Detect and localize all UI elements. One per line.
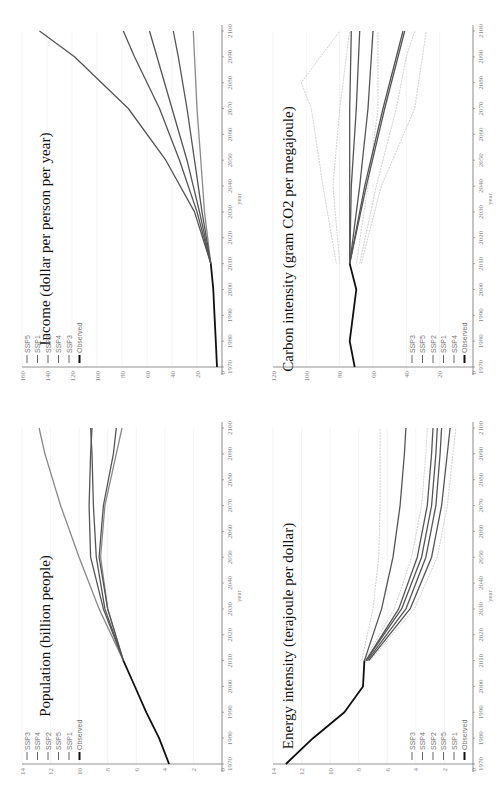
- y-tick-label: 8: [104, 768, 112, 772]
- y-tick-label: 2: [441, 768, 449, 772]
- x-tick-label: 2000: [226, 282, 234, 297]
- x-tick-label: 2010: [477, 653, 485, 668]
- x-tick-label: 2010: [477, 256, 485, 271]
- series-line-ssp5: [40, 31, 211, 264]
- panel-population: 0246810121419701980199020002010202020302…: [0, 397, 250, 794]
- x-tick-label: 2100: [477, 24, 485, 39]
- legend-label: SSP1: [34, 335, 41, 353]
- y-tick-label: 6: [133, 768, 141, 772]
- y-tick-label: 100: [94, 371, 102, 382]
- x-tick-label: 2000: [226, 679, 234, 694]
- chart-income: 0204060801001201401601970198019902000201…: [0, 0, 250, 397]
- x-tick-label: 2060: [477, 127, 485, 142]
- legend-label: SSP3: [66, 335, 73, 353]
- series-line-observed: [286, 661, 365, 764]
- x-tick-label: 1980: [477, 731, 485, 746]
- legend-label: Observed: [461, 720, 468, 750]
- legend-label: SSP4: [55, 335, 62, 353]
- x-tick-label: 1990: [477, 308, 485, 323]
- legend-label: SSP4: [451, 335, 458, 353]
- legend-label: SSP1: [451, 732, 458, 750]
- x-tick-label: 2100: [477, 421, 485, 436]
- x-axis-label: year: [486, 192, 494, 205]
- chart-title: Energy intensity (terajoule per dollar): [280, 523, 297, 749]
- y-tick-label: 80: [119, 371, 127, 379]
- x-tick-label: 2020: [226, 627, 234, 642]
- x-tick-label: 2050: [477, 153, 485, 168]
- y-tick-label: 60: [144, 371, 152, 379]
- x-tick-label: 2060: [477, 524, 485, 539]
- x-tick-label: 1980: [226, 731, 234, 746]
- x-tick-label: 1970: [226, 360, 234, 375]
- x-tick-label: 2090: [477, 446, 485, 461]
- x-tick-label: 2040: [477, 179, 485, 194]
- legend-label: SSP3: [24, 732, 31, 750]
- panel-carbon-intensity: 0204060801001201970198019902000201020202…: [251, 0, 501, 397]
- x-tick-label: 1970: [477, 360, 485, 375]
- panel-energy-intensity: 0246810121419701980199020002010202020302…: [251, 397, 501, 794]
- chart-page: 0246810121419701980199020002010202020302…: [0, 0, 501, 794]
- legend-label: SSP2: [430, 732, 437, 750]
- series-line-observed: [123, 661, 169, 764]
- y-tick-label: 10: [76, 768, 84, 776]
- legend-label: Observed: [76, 720, 83, 750]
- x-tick-label: 1990: [477, 705, 485, 720]
- legend-label: SSP4: [34, 732, 41, 750]
- legend-label: SSP5: [440, 732, 447, 750]
- x-tick-label: 2020: [226, 230, 234, 245]
- x-tick-label: 1980: [477, 334, 485, 349]
- legend-label: SSP5: [24, 335, 31, 353]
- x-tick-label: 2070: [477, 498, 485, 513]
- legend-label: SSP5: [55, 732, 62, 750]
- y-tick-label: 100: [303, 371, 311, 382]
- x-tick-label: 1970: [477, 757, 485, 772]
- legend-label: Observed: [76, 323, 83, 353]
- legend-label: SSP3: [409, 335, 416, 353]
- x-tick-label: 2040: [226, 576, 234, 591]
- x-tick-label: 2090: [226, 446, 234, 461]
- x-tick-label: 2080: [477, 472, 485, 487]
- x-tick-label: 2030: [477, 204, 485, 219]
- x-tick-label: 2070: [226, 101, 234, 116]
- y-tick-label: 4: [412, 768, 420, 772]
- y-tick-label: 160: [19, 371, 27, 382]
- y-tick-label: 14: [19, 768, 27, 776]
- legend-label: SSP2: [45, 732, 52, 750]
- y-tick-label: 20: [436, 371, 444, 379]
- y-tick-label: 40: [169, 371, 177, 379]
- x-tick-label: 2080: [477, 75, 485, 90]
- series-line-band-high2: [333, 31, 350, 264]
- chart-carbon-intensity: 0204060801001201970198019902000201020202…: [251, 0, 501, 397]
- x-tick-label: 2040: [226, 179, 234, 194]
- series-line-band-mid: [356, 31, 378, 264]
- y-tick-label: 12: [298, 768, 306, 776]
- x-tick-label: 2050: [477, 550, 485, 565]
- legend-label: SSP5: [419, 335, 426, 353]
- x-axis-label: year: [235, 589, 243, 602]
- x-tick-label: 2050: [226, 550, 234, 565]
- series-line-ssp3-band: [362, 428, 381, 661]
- x-tick-label: 2070: [226, 498, 234, 513]
- x-tick-label: 2100: [226, 24, 234, 39]
- x-tick-label: 1990: [226, 705, 234, 720]
- series-line-band-high: [301, 31, 339, 264]
- x-tick-label: 2080: [226, 472, 234, 487]
- x-tick-label: 2010: [226, 653, 234, 668]
- y-tick-label: 14: [270, 768, 278, 776]
- chart-energy-intensity: 0246810121419701980199020002010202020302…: [251, 397, 501, 794]
- legend-label: SSP1: [66, 732, 73, 750]
- series-line-band-low: [370, 428, 456, 661]
- x-tick-label: 2060: [226, 524, 234, 539]
- x-tick-label: 2040: [477, 576, 485, 591]
- y-tick-label: 80: [336, 371, 344, 379]
- x-tick-label: 2020: [477, 627, 485, 642]
- y-tick-label: 4: [161, 768, 169, 772]
- x-tick-label: 2010: [226, 256, 234, 271]
- series-line-ssp2: [89, 428, 123, 661]
- series-line-observed: [211, 264, 217, 367]
- y-tick-label: 10: [327, 768, 335, 776]
- legend-label: SSP1: [440, 335, 447, 353]
- series-line-ssp4: [173, 31, 211, 264]
- y-tick-label: 12: [47, 768, 55, 776]
- legend-label: SSP4: [419, 732, 426, 750]
